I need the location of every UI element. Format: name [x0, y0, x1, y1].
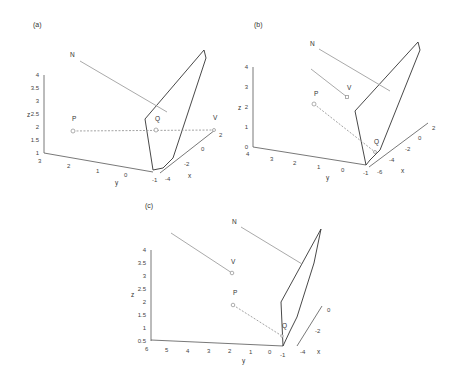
panel-a-y-ticks: 3 2 1 0 -1 [38, 158, 158, 183]
panel-b-label-Q: Q [374, 138, 379, 146]
panel-c-label-Q: Q [282, 322, 287, 330]
svg-text:2.5: 2.5 [138, 286, 147, 292]
panel-c: (c) 4 3.5 3 2.5 2 1.5 1 0.5 z 6 5 4 3 2 … [131, 202, 331, 365]
panel-c-label-N: N [232, 218, 237, 225]
panel-a-normal-ray [80, 61, 167, 112]
svg-text:1.5: 1.5 [138, 312, 147, 318]
svg-text:1: 1 [317, 164, 321, 170]
svg-text:-1: -1 [363, 170, 369, 176]
panel-a-plane [145, 50, 206, 170]
svg-text:2: 2 [67, 163, 71, 169]
svg-text:4: 4 [186, 348, 190, 354]
panel-a-dashed-ray [73, 130, 214, 131]
panel-c-normal-ray [241, 227, 302, 264]
svg-text:2: 2 [245, 104, 249, 110]
svg-text:0: 0 [268, 349, 272, 355]
panel-a-point-P [71, 129, 75, 133]
svg-text:-6: -6 [377, 169, 383, 175]
panel-c-dashed-ray [233, 305, 282, 336]
panel-c-label-V: V [231, 258, 236, 265]
panel-c-z-label: z [131, 291, 134, 298]
svg-text:3: 3 [270, 156, 274, 162]
svg-text:0: 0 [327, 307, 331, 313]
panel-a-z-ticks: 4 3.5 3 2.5 2 1.5 1 [31, 72, 40, 156]
panel-c-z-ticks: 4 3.5 3 2.5 2 1.5 1 0.5 [138, 247, 147, 344]
svg-text:4: 4 [245, 64, 249, 70]
svg-text:2: 2 [432, 125, 436, 131]
panel-c-label-P: P [233, 289, 237, 296]
svg-text:0: 0 [245, 144, 249, 150]
panel-a-x-label: x [188, 172, 192, 179]
svg-text:0: 0 [341, 167, 345, 173]
panel-c-point-V [230, 271, 234, 275]
svg-text:0.5: 0.5 [138, 338, 147, 344]
svg-text:3.5: 3.5 [138, 260, 147, 266]
svg-text:0: 0 [418, 135, 422, 141]
svg-text:1: 1 [143, 325, 147, 331]
panel-b-normal-ray [319, 49, 390, 91]
panel-a-z-label: z [27, 111, 30, 118]
panel-c-label: (c) [145, 202, 153, 210]
svg-text:5: 5 [165, 347, 169, 353]
svg-text:2: 2 [219, 132, 223, 138]
panel-b-label: (b) [254, 21, 263, 29]
svg-text:2: 2 [228, 348, 232, 354]
panel-b-z-label: z [238, 104, 241, 111]
panel-b-y-label: y [326, 174, 330, 182]
panel-b-x-ticks: -6 -4 -2 0 2 [377, 125, 436, 175]
panel-a-label-N: N [70, 51, 75, 58]
panel-b-point-V [346, 96, 349, 99]
svg-text:3: 3 [207, 348, 211, 354]
svg-text:1: 1 [96, 168, 100, 174]
panel-c-point-P [231, 303, 235, 307]
svg-text:0: 0 [124, 172, 128, 178]
panel-b-dashed-ray [314, 104, 375, 152]
svg-text:4: 4 [36, 72, 40, 78]
svg-text:2: 2 [36, 124, 40, 130]
svg-text:4: 4 [143, 247, 147, 253]
panel-a-point-V [213, 129, 216, 132]
panel-a-y-label: y [115, 179, 119, 187]
panel-a-label-V: V [213, 114, 218, 121]
panel-b-point-P [312, 102, 316, 106]
svg-text:-2: -2 [315, 328, 321, 334]
panel-b-label-V: V [347, 84, 352, 91]
panel-a: (a) 4 3.5 3 2.5 2 1.5 1 z 3 2 1 0 -1 y -… [27, 21, 223, 187]
svg-text:2: 2 [293, 160, 297, 166]
svg-text:4: 4 [246, 151, 250, 157]
panel-c-x-axis [297, 306, 322, 346]
panel-a-label-P: P [72, 115, 76, 122]
panel-a-point-Q [154, 128, 158, 132]
svg-text:1: 1 [249, 349, 253, 355]
panel-c-y-ticks: 6 5 4 3 2 1 0 -1 [145, 346, 286, 358]
panel-b-x-axis [369, 123, 428, 167]
panel-c-point-Q [281, 335, 284, 338]
svg-text:6: 6 [145, 346, 149, 352]
panel-a-label-Q: Q [155, 115, 160, 123]
svg-text:2.5: 2.5 [31, 111, 40, 117]
panel-a-label: (a) [33, 21, 42, 29]
svg-text:1: 1 [36, 150, 40, 156]
panel-b-x-label: x [401, 167, 405, 174]
svg-text:3: 3 [245, 84, 249, 90]
panel-b-y-ticks: 4 3 2 1 0 -1 [246, 151, 369, 176]
svg-text:3: 3 [38, 158, 42, 164]
svg-text:3.5: 3.5 [31, 85, 40, 91]
panel-b-label-N: N [310, 40, 315, 47]
panel-c-y-axis [151, 340, 283, 346]
panel-c-x-ticks: -4 -2 0 [300, 307, 331, 355]
panel-b-label-P: P [314, 90, 318, 97]
svg-text:3: 3 [36, 98, 40, 104]
svg-text:1: 1 [245, 124, 249, 130]
svg-text:-2: -2 [184, 161, 190, 167]
svg-text:-2: -2 [405, 146, 411, 152]
panel-b: (b) 4 3 2 1 0 z 4 3 2 1 0 -1 y -6 -4 -2 … [238, 21, 436, 182]
figure-canvas: (a) 4 3.5 3 2.5 2 1.5 1 z 3 2 1 0 -1 y -… [0, 0, 454, 374]
svg-text:0: 0 [201, 146, 205, 152]
svg-text:-1: -1 [152, 177, 158, 183]
svg-text:-1: -1 [280, 352, 286, 358]
panel-c-y-label: y [242, 357, 246, 365]
svg-text:-4: -4 [165, 176, 171, 182]
panel-c-view-ray [171, 233, 232, 273]
svg-text:-4: -4 [389, 157, 395, 163]
